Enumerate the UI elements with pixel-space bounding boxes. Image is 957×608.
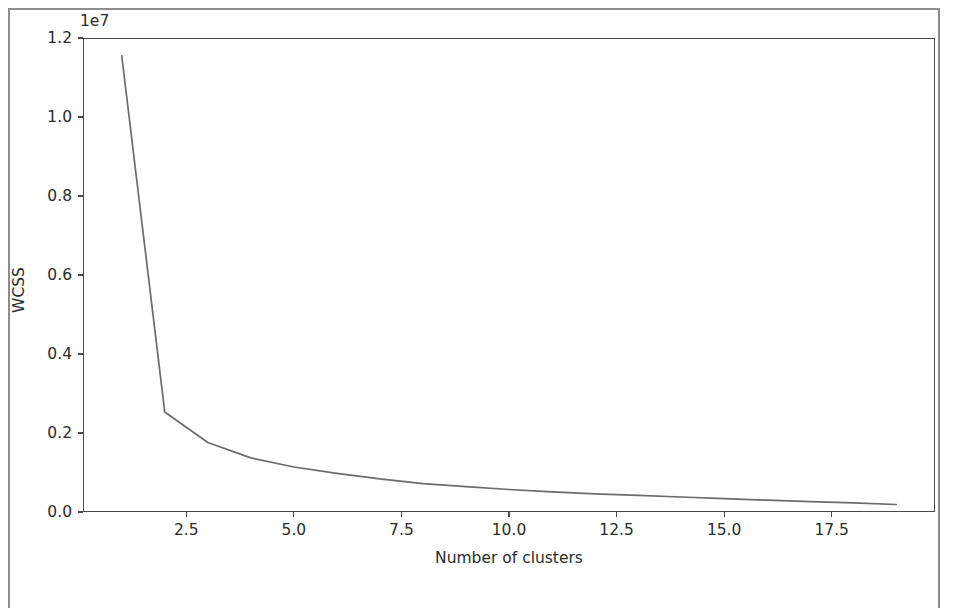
- wcss-line-series: [122, 56, 897, 505]
